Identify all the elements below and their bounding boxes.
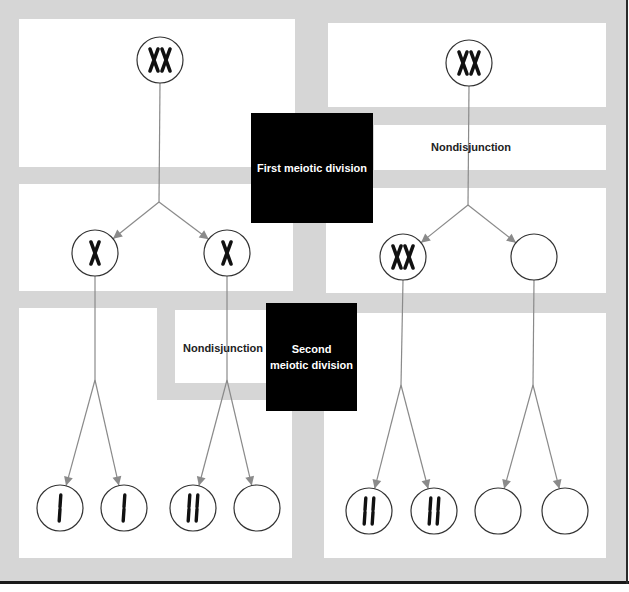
lineage-line (421, 205, 468, 243)
daughter-cell (380, 234, 426, 280)
first-meiotic-division-label: First meiotic division (251, 113, 373, 223)
arrowhead-icon (113, 230, 123, 239)
lineage-line (227, 380, 252, 486)
parent-cell (137, 37, 183, 83)
lineage-line (95, 380, 119, 486)
empty-gamete-cell (542, 488, 588, 534)
nondisjunction-label-first: Nondisjunction (431, 141, 511, 153)
arrowhead-icon (64, 476, 73, 486)
second-meiotic-division-line1: Second (292, 341, 332, 357)
gamete-cell (170, 485, 216, 531)
lineage-lines-and-cells (0, 0, 629, 592)
lineage-line (66, 380, 95, 486)
arrowhead-icon (199, 230, 209, 239)
single-chromatid-icon (429, 498, 431, 524)
arrowhead-icon (506, 234, 516, 243)
gamete-cell (411, 488, 457, 534)
lineage-line (533, 280, 534, 385)
arrowhead-icon (197, 476, 206, 486)
lineage-line (504, 385, 533, 489)
arrowhead-icon (373, 479, 382, 489)
meiosis-nondisjunction-diagram: First meiotic division Second meiotic di… (0, 0, 629, 592)
arrowhead-icon (113, 476, 122, 486)
first-meiotic-division-text: First meiotic division (257, 160, 367, 176)
arrowhead-icon (421, 233, 431, 242)
single-chromatid-icon (59, 495, 61, 521)
gamete-cell (346, 488, 392, 534)
single-chromatid-icon (372, 498, 374, 524)
lineage-line (401, 280, 403, 385)
single-chromatid-icon (196, 495, 198, 521)
lineage-line (401, 385, 428, 489)
lineage-line (468, 205, 516, 243)
empty-gamete-cell (234, 485, 280, 531)
daughter-cell (511, 234, 557, 280)
lineage-line (199, 380, 227, 486)
arrowhead-icon (502, 479, 511, 489)
second-meiotic-division-label: Second meiotic division (266, 303, 357, 411)
parent-cell (446, 40, 492, 86)
lineage-line (533, 385, 559, 489)
nondisjunction-label-second: Nondisjunction (183, 342, 263, 354)
single-chromatid-icon (437, 498, 439, 524)
lineage-line (159, 202, 209, 239)
arrowhead-icon (422, 479, 431, 489)
single-chromatid-icon (364, 498, 366, 524)
single-chromatid-icon (188, 495, 190, 521)
single-chromatid-icon (123, 495, 125, 521)
arrowhead-icon (245, 476, 254, 486)
lineage-line (159, 83, 160, 202)
lineage-line (375, 385, 401, 489)
empty-gamete-cell (475, 488, 521, 534)
arrowhead-icon (553, 479, 562, 489)
second-meiotic-division-line2: meiotic division (270, 357, 353, 373)
